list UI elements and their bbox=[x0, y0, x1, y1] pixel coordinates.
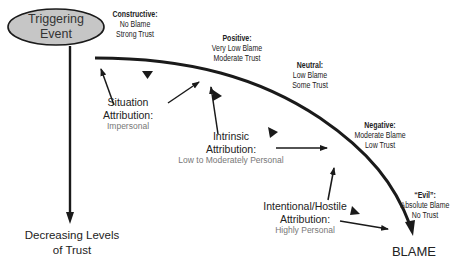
trigger-line1: Triggering bbox=[14, 12, 98, 27]
triangle-marker-icon bbox=[350, 206, 360, 215]
intentional-arrow-up bbox=[328, 168, 334, 200]
stage-trust: Moderate Trust bbox=[203, 53, 272, 63]
attribution-line2: Attribution: bbox=[178, 143, 284, 156]
attribution-sub: Low to Moderately Personal bbox=[178, 155, 284, 166]
stage-blame: Low Blame bbox=[277, 70, 343, 80]
stage-title: Neutral: bbox=[277, 60, 343, 70]
stage-blame: Moderate Blame bbox=[347, 130, 413, 140]
stage-constructive: Constructive: No Blame Strong Trust bbox=[100, 9, 170, 39]
stage-evil: “Evil”: Absolute Blame No Trust bbox=[385, 190, 459, 220]
stage-blame: Very Low Blame bbox=[203, 43, 272, 53]
attribution-sub: Impersonal bbox=[88, 121, 168, 132]
stage-trust: Some Trust bbox=[277, 80, 343, 90]
trigger-line2: Event bbox=[14, 27, 98, 42]
stage-positive: Positive: Very Low Blame Moderate Trust bbox=[195, 33, 279, 63]
attribution-line2: Attribution: bbox=[262, 213, 348, 226]
stage-negative: Negative: Moderate Blame Low Trust bbox=[340, 120, 420, 150]
triangle-marker-icon bbox=[142, 71, 153, 79]
stage-title: Positive: bbox=[203, 33, 272, 43]
situation-attribution: Situation Attribution: Impersonal bbox=[88, 96, 168, 132]
stage-trust: Low Trust bbox=[347, 140, 413, 150]
stage-blame: No Blame bbox=[106, 19, 163, 29]
triangle-marker-icon bbox=[213, 90, 222, 101]
attribution-line1: Intentional/Hostile bbox=[262, 200, 348, 213]
intrinsic-attribution: Intrinsic Attribution: Low to Moderately… bbox=[178, 130, 284, 166]
blame-text: BLAME bbox=[392, 244, 436, 259]
intentional-attribution: Intentional/Hostile Attribution: Highly … bbox=[262, 200, 348, 236]
situation-arrow-right bbox=[168, 82, 199, 103]
stage-title: Constructive: bbox=[106, 9, 163, 19]
blame-label: BLAME bbox=[379, 244, 449, 259]
triggering-event-label: Triggering Event bbox=[14, 12, 98, 42]
decreasing-trust-arrow bbox=[66, 46, 74, 224]
axis-label-line1: Decreasing Levels bbox=[12, 228, 132, 243]
decreasing-trust-label: Decreasing Levels of Trust bbox=[12, 228, 132, 258]
attribution-sub: Highly Personal bbox=[262, 225, 348, 236]
axis-label-line2: of Trust bbox=[12, 243, 132, 258]
attribution-line2: Attribution: bbox=[88, 109, 168, 122]
stage-blame: Absolute Blame bbox=[392, 200, 458, 210]
stage-neutral: Neutral: Low Blame Some Trust bbox=[270, 60, 350, 90]
stage-title: Negative: bbox=[347, 120, 413, 130]
attribution-line1: Intrinsic bbox=[178, 130, 284, 143]
stage-trust: No Trust bbox=[392, 210, 458, 220]
stage-trust: Strong Trust bbox=[106, 29, 163, 39]
attribution-line1: Situation bbox=[88, 96, 168, 109]
stage-title: “Evil”: bbox=[392, 190, 458, 200]
